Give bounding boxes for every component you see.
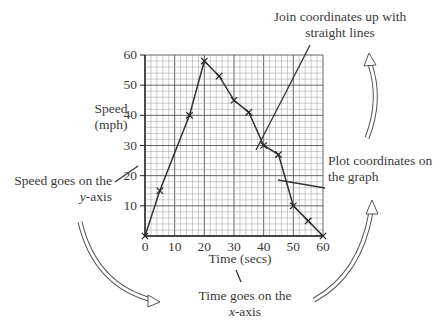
curved-arrow-left-icon-inner [80, 222, 152, 300]
y-axis-label: Speed (mph) [86, 101, 136, 133]
x-tick-label: 10 [163, 240, 187, 254]
speed-time-graph-figure: 102030405060 0102030405060 Speed (mph) T… [0, 0, 444, 334]
join-annotation: Join coordinates up with straight lines [255, 9, 425, 41]
time-axis-annotation: Time goes on the x-axis [190, 288, 300, 320]
x-tick-label: 60 [311, 240, 335, 254]
time-leader-line [236, 270, 241, 282]
speed-axis-annotation: Speed goes on the y-axis [4, 173, 112, 205]
data-point-marker [305, 218, 311, 224]
curved-arrow-left-icon-head [148, 295, 160, 307]
curved-arrow-left-icon [80, 222, 152, 300]
y-tick-label: 20 [115, 169, 137, 183]
curved-arrow-right-icon-head [366, 200, 378, 214]
data-point-marker [246, 109, 252, 115]
x-axis-label: Time (secs) [190, 251, 290, 267]
plot-annotation: Plot coordinates on the graph [328, 153, 432, 185]
plot-leader-line [278, 180, 325, 188]
y-tick-label: 30 [115, 139, 137, 153]
y-tick-label: 10 [115, 199, 137, 213]
y-tick-label: 60 [115, 48, 137, 62]
y-tick-label: 50 [115, 78, 137, 92]
data-point-marker [216, 73, 222, 79]
curved-arrow-top-icon-head [364, 53, 376, 66]
x-tick-label: 0 [133, 240, 157, 254]
